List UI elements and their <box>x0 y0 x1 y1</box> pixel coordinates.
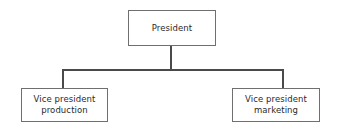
node-vp-production: Vice president production <box>21 88 108 122</box>
connector-drop-vp-production <box>62 69 64 88</box>
node-vp-marketing-label: Vice president marketing <box>245 94 307 116</box>
node-vp-marketing: Vice president marketing <box>232 88 320 122</box>
connector-president-stem <box>170 46 172 71</box>
connector-drop-vp-marketing <box>282 69 284 88</box>
node-president: President <box>128 10 216 46</box>
org-chart-diagram: President Vice president production Vice… <box>0 0 339 134</box>
node-vp-production-label: Vice president production <box>33 94 95 116</box>
node-president-label: President <box>152 23 193 34</box>
connector-horizontal-bar <box>62 69 284 71</box>
